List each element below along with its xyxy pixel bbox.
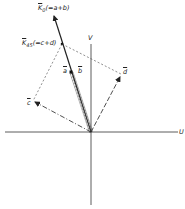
k0-label: K0(=a+b) (38, 5, 70, 13)
d-label: d (123, 69, 127, 76)
v-axis-label: V (88, 35, 92, 42)
u-axis-label: U (179, 129, 184, 136)
k45-to-c-dashed (33, 44, 62, 101)
b-label: b (78, 68, 82, 75)
ab-point (70, 71, 73, 74)
d-vector (91, 77, 120, 132)
c-label: c (27, 100, 31, 107)
a-label: a (63, 68, 67, 75)
k0-expression: (=a+b) (45, 4, 69, 12)
k45-label: K45(=c+d) (22, 40, 56, 48)
k45-expression: (=c+d) (33, 39, 57, 47)
ab-hatched-segment (70, 72, 93, 133)
